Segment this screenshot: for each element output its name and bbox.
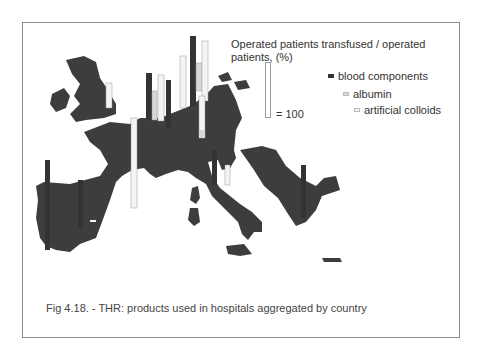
legend-title: Operated patients transfused / operated … (231, 38, 431, 64)
scale-bar (265, 62, 271, 118)
legend-item-albumin: albumin (343, 88, 392, 100)
albumin-swatch-icon (343, 92, 349, 96)
legend-item-artificial-colloids: artificial colloids (354, 104, 441, 116)
blood-components-swatch-icon (328, 74, 334, 78)
artificial-colloids-swatch-icon (354, 108, 360, 112)
legend-label: blood components (338, 70, 428, 82)
figure-caption: Fig 4.18. - THR: products used in hospit… (46, 302, 367, 314)
legend-label: albumin (353, 88, 392, 100)
legend-item-blood-components: blood components (328, 70, 428, 82)
legend-label: artificial colloids (364, 104, 441, 116)
landmass (36, 56, 342, 262)
scale-label: = 100 (276, 108, 304, 120)
